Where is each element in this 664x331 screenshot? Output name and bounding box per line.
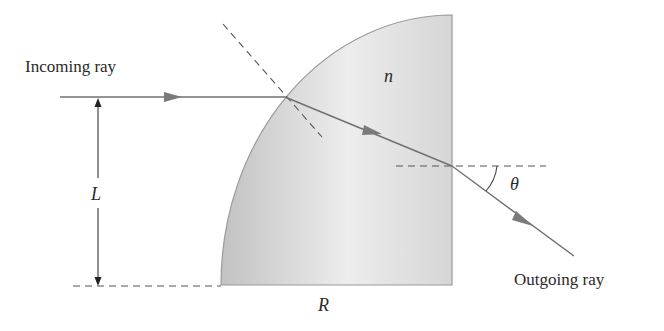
incoming-ray-label: Incoming ray bbox=[25, 57, 117, 76]
angle-label: θ bbox=[510, 174, 519, 194]
outgoing-arrowhead-icon bbox=[512, 211, 533, 226]
outgoing-ray-label: Outgoing ray bbox=[514, 270, 605, 289]
angle-arc bbox=[486, 166, 497, 191]
height-label: L bbox=[90, 184, 101, 204]
radius-label: R bbox=[317, 295, 329, 315]
refractive-index-label: n bbox=[384, 66, 393, 86]
refraction-diagram: Incoming ray Outgoing ray n L R θ bbox=[0, 0, 664, 331]
arrow-up-icon bbox=[95, 98, 102, 107]
arrow-down-icon bbox=[95, 277, 102, 286]
incoming-arrowhead-icon bbox=[164, 92, 182, 102]
quarter-cylinder bbox=[221, 15, 452, 285]
